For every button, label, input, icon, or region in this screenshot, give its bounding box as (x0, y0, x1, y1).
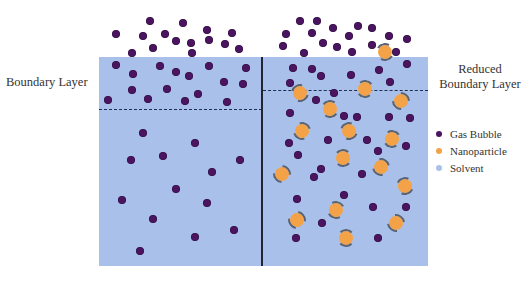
gas-bubble-icon (113, 62, 120, 69)
nanoparticle-icon (357, 81, 373, 97)
gas-bubble-icon (375, 235, 382, 242)
gas-bubble-icon (224, 99, 231, 106)
nanoparticle-icon (322, 101, 338, 117)
gas-bubble-icon (180, 20, 187, 27)
gas-bubble-icon (309, 66, 316, 73)
gas-bubble-icon (349, 49, 356, 56)
gas-bubble-icon (407, 115, 414, 122)
legend-label: Solvent (450, 162, 484, 174)
gas-bubble-icon (140, 130, 147, 137)
gas-bubble-swatch-icon (436, 131, 442, 137)
gas-bubble-icon (404, 61, 411, 68)
legend-label: Gas Bubble (450, 128, 502, 140)
solvent-swatch-icon (436, 165, 442, 171)
gas-bubble-icon (221, 79, 228, 86)
gas-bubble-icon (341, 192, 348, 199)
gas-bubble-icon (354, 114, 361, 121)
gas-bubble-icon (173, 38, 180, 45)
gas-bubble-icon (369, 25, 376, 32)
gas-bubble-icon (182, 98, 189, 105)
gas-bubble-icon (313, 97, 320, 104)
gas-bubble-icon (290, 65, 297, 72)
gas-bubble-icon (341, 113, 348, 120)
gas-bubble-icon (231, 227, 238, 234)
gas-bubble-icon (130, 71, 137, 78)
label-boundary-layer: Boundary Layer (6, 75, 88, 90)
gas-bubble-icon (297, 18, 304, 25)
gas-bubble-icon (280, 43, 287, 50)
gas-bubble-icon (113, 31, 120, 38)
gas-bubble-icon (173, 186, 180, 193)
gas-bubble-icon (376, 67, 383, 74)
gas-bubble-icon (331, 90, 338, 97)
gas-bubble-icon (295, 152, 302, 159)
gas-bubble-icon (403, 204, 410, 211)
gas-bubble-icon (236, 46, 243, 53)
gas-bubble-icon (359, 171, 366, 178)
gas-bubble-icon (188, 40, 195, 47)
nanoparticle-icon (396, 177, 414, 195)
gas-bubble-icon (369, 42, 376, 49)
gas-bubble-icon (206, 37, 213, 44)
gas-bubble-icon (150, 216, 157, 223)
gas-bubble-icon (173, 69, 180, 76)
nanoparticle-icon (336, 151, 351, 166)
gas-bubble-icon (160, 153, 167, 160)
gas-bubble-icon (330, 25, 337, 32)
gas-bubble-icon (348, 72, 355, 79)
boundary-line-right (263, 90, 428, 91)
nanoparticle-icon (384, 131, 401, 148)
gas-bubble-icon (287, 80, 294, 87)
gas-bubble-icon (287, 110, 294, 117)
gas-bubble-icon (195, 91, 202, 98)
gas-bubble-icon (387, 79, 394, 86)
gas-bubble-icon (283, 31, 290, 38)
nanoparticle-icon (339, 231, 353, 245)
gas-bubble-icon (243, 65, 250, 72)
gas-bubble-icon (162, 31, 169, 38)
gas-bubble-icon (294, 196, 301, 203)
gas-bubble-icon (301, 50, 308, 57)
legend: Gas Bubble Nanoparticle Solvent (436, 125, 507, 176)
nanoparticle-swatch-icon (436, 148, 442, 154)
gas-bubble-icon (209, 169, 216, 176)
gas-bubble-icon (157, 63, 164, 70)
gas-bubble-icon (386, 33, 393, 40)
gas-bubble-icon (137, 248, 144, 255)
gas-bubble-icon (206, 63, 213, 70)
gas-bubble-icon (147, 18, 154, 25)
label-reduced-line1: Reduced (434, 62, 526, 77)
gas-bubble-icon (346, 33, 353, 40)
label-reduced-boundary-layer: Reduced Boundary Layer (434, 62, 526, 92)
gas-bubble-icon (237, 157, 244, 164)
gas-bubble-icon (286, 140, 293, 147)
gas-bubble-icon (404, 36, 411, 43)
gas-bubble-icon (222, 41, 229, 48)
gas-bubble-icon (334, 44, 341, 51)
label-reduced-line2: Boundary Layer (434, 77, 526, 92)
gas-bubble-icon (150, 45, 157, 52)
gas-bubble-icon (192, 234, 199, 241)
gas-bubble-icon (129, 50, 136, 57)
gas-bubble-icon (325, 137, 332, 144)
gas-bubble-icon (240, 81, 247, 88)
gas-bubble-icon (204, 200, 211, 207)
legend-item-solvent: Solvent (436, 159, 507, 176)
gas-bubble-icon (318, 166, 325, 173)
gas-bubble-icon (140, 33, 147, 40)
gas-bubble-icon (311, 174, 318, 181)
gas-bubble-icon (314, 18, 321, 25)
gas-bubble-icon (229, 30, 236, 37)
gas-bubble-icon (145, 96, 152, 103)
gas-bubble-icon (129, 87, 136, 94)
boundary-line-left (99, 109, 262, 110)
gas-bubble-icon (320, 40, 327, 47)
gas-bubble-icon (128, 157, 135, 164)
gas-bubble-icon (386, 114, 393, 121)
gas-bubble-icon (293, 235, 300, 242)
gas-bubble-icon (375, 148, 382, 155)
nanoparticle-icon (376, 43, 393, 60)
legend-item-nanoparticle: Nanoparticle (436, 142, 507, 159)
gas-bubble-icon (192, 140, 199, 147)
gas-bubble-icon (204, 27, 211, 34)
